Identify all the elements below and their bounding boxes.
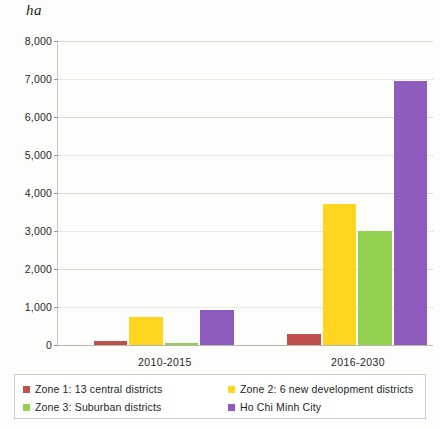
- y-axis-tick-label: 6,000: [25, 111, 52, 123]
- legend-item-zone-3[interactable]: Zone 3: Suburban districts: [23, 401, 228, 413]
- bar-chart: 8,0007,0006,0005,0004,0003,0002,0001,000…: [0, 22, 440, 370]
- y-axis-unit-label: ha: [26, 2, 42, 19]
- legend-swatch-hcmc: [228, 404, 235, 411]
- y-axis-tick-label: 5,000: [25, 149, 52, 161]
- legend-row-1: Zone 1: 13 central districts Zone 2: 6 n…: [23, 380, 425, 398]
- y-axis-tick-label: 7,000: [25, 73, 52, 85]
- bar[interactable]: [165, 343, 199, 345]
- bar[interactable]: [94, 341, 128, 345]
- legend-item-hcmc[interactable]: Ho Chi Minh City: [228, 401, 321, 413]
- chart-legend: Zone 1: 13 central districts Zone 2: 6 n…: [14, 374, 426, 419]
- bar[interactable]: [200, 310, 234, 345]
- y-axis-tick-label: 0: [46, 339, 52, 351]
- legend-swatch-zone-3: [23, 404, 30, 411]
- bar[interactable]: [323, 204, 357, 345]
- legend-item-zone-2[interactable]: Zone 2: 6 new development districts: [228, 383, 413, 395]
- y-axis-tick-mark: [54, 307, 58, 308]
- y-axis-tick-mark: [54, 269, 58, 270]
- y-axis-tick-mark: [54, 345, 58, 346]
- plot-area: 8,0007,0006,0005,0004,0003,0002,0001,000…: [57, 41, 433, 346]
- legend-item-zone-1[interactable]: Zone 1: 13 central districts: [23, 383, 228, 395]
- bar[interactable]: [287, 334, 321, 345]
- bar-group: 2010-2015: [94, 41, 236, 345]
- chart-page: ha 8,0007,0006,0005,0004,0003,0002,0001,…: [0, 0, 440, 429]
- bar[interactable]: [394, 81, 428, 345]
- y-axis-tick-label: 3,000: [25, 225, 52, 237]
- y-axis-tick-label: 1,000: [25, 301, 52, 313]
- legend-swatch-zone-1: [23, 386, 30, 393]
- y-axis-tick-label: 8,000: [25, 35, 52, 47]
- y-axis-tick-mark: [54, 79, 58, 80]
- bar[interactable]: [358, 231, 392, 345]
- y-axis-tick-mark: [54, 41, 58, 42]
- y-axis-tick-mark: [54, 193, 58, 194]
- x-axis-group-label: 2016-2030: [331, 356, 385, 368]
- y-axis-tick-mark: [54, 117, 58, 118]
- legend-swatch-zone-2: [228, 386, 235, 393]
- legend-row-2: Zone 3: Suburban districts Ho Chi Minh C…: [23, 398, 425, 416]
- legend-label-zone-1: Zone 1: 13 central districts: [35, 383, 162, 395]
- y-axis-tick-mark: [54, 231, 58, 232]
- y-axis-tick-mark: [54, 155, 58, 156]
- x-axis-group-label: 2010-2015: [138, 356, 192, 368]
- bar-group: 2016-2030: [287, 41, 429, 345]
- legend-label-hcmc: Ho Chi Minh City: [240, 401, 321, 413]
- y-axis-tick-label: 4,000: [25, 187, 52, 199]
- legend-label-zone-2: Zone 2: 6 new development districts: [240, 383, 413, 395]
- y-axis-tick-label: 2,000: [25, 263, 52, 275]
- legend-label-zone-3: Zone 3: Suburban districts: [35, 401, 161, 413]
- bar[interactable]: [129, 317, 163, 345]
